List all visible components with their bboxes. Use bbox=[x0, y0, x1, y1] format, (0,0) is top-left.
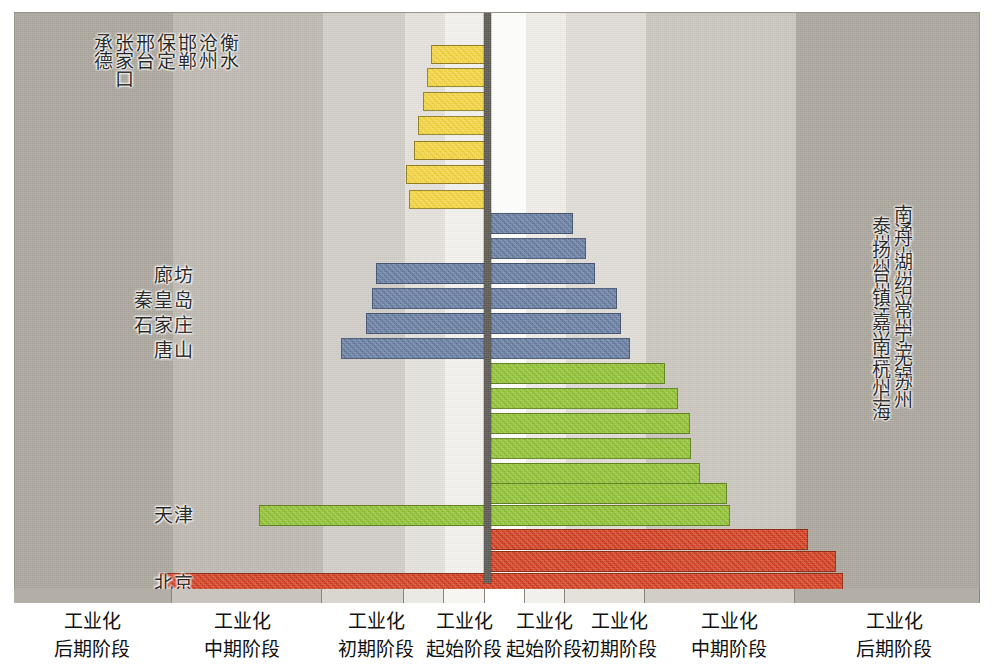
bar-texture bbox=[488, 364, 664, 383]
x-label-line1-5: 工业化 bbox=[564, 608, 674, 636]
x-label-line2-6: 中期阶段 bbox=[674, 636, 784, 664]
bar-texture bbox=[488, 214, 572, 233]
x-label-line2-7: 后期阶段 bbox=[839, 636, 949, 664]
x-tick-cell-4 bbox=[444, 589, 485, 603]
x-label-line1-1: 工业化 bbox=[187, 608, 297, 636]
bar-blue-4[interactable] bbox=[366, 313, 621, 334]
bar-green-3[interactable] bbox=[487, 438, 691, 459]
bar-yellow-3[interactable] bbox=[418, 116, 487, 135]
bar-green-6[interactable] bbox=[259, 505, 730, 526]
bar-yellow-2[interactable] bbox=[423, 92, 487, 111]
bar-green-0[interactable] bbox=[487, 363, 665, 384]
bar-green-5[interactable] bbox=[487, 483, 727, 504]
left-city-hlabel-2: 石家庄 bbox=[134, 310, 194, 337]
bar-texture bbox=[373, 289, 616, 308]
bar-green-1[interactable] bbox=[487, 388, 678, 409]
x-axis-tick-strip bbox=[14, 589, 980, 603]
x-tick-cell-1 bbox=[172, 589, 322, 603]
x-axis-label-group-0: 工业化后期阶段 bbox=[37, 608, 147, 663]
bar-texture bbox=[488, 389, 677, 408]
x-tick-cell-3 bbox=[404, 589, 444, 603]
bar-texture bbox=[407, 166, 486, 183]
right-city-label-15: 苏州 bbox=[892, 372, 911, 408]
x-label-line2-1: 中期阶段 bbox=[187, 636, 297, 664]
left-city-hlabel-0: 廊坊 bbox=[154, 260, 194, 287]
x-tick-cell-8 bbox=[645, 589, 795, 603]
bar-red-0[interactable] bbox=[487, 529, 808, 550]
bar-texture bbox=[424, 93, 486, 110]
left-city-label-4: 邯郸 bbox=[176, 33, 195, 69]
x-axis-label-group-5: 工业化初期阶段 bbox=[564, 608, 674, 663]
bar-texture bbox=[410, 191, 486, 208]
left-city-hlabel-3: 唐山 bbox=[154, 335, 194, 362]
bar-texture bbox=[419, 117, 486, 134]
left-city-label-0: 承德 bbox=[92, 33, 111, 69]
left-city-label-3: 保定 bbox=[155, 33, 174, 69]
bar-blue-3[interactable] bbox=[372, 288, 617, 309]
x-label-line1-0: 工业化 bbox=[37, 608, 147, 636]
x-tick-cell-6 bbox=[525, 589, 565, 603]
bar-texture bbox=[432, 46, 486, 63]
bar-texture bbox=[488, 439, 690, 458]
x-tick-cell-9 bbox=[795, 589, 980, 603]
x-axis-label-group-7: 工业化后期阶段 bbox=[839, 608, 949, 663]
bar-texture bbox=[260, 506, 729, 525]
bar-texture bbox=[488, 464, 699, 483]
chart-plot-area: 承德张家口邢台保定邯郸沧州衡水 廊坊秦皇岛石家庄唐山天津北京 泰州南通扬州舟山台… bbox=[14, 12, 980, 602]
bar-blue-1[interactable] bbox=[487, 238, 586, 259]
bar-green-4[interactable] bbox=[487, 463, 700, 484]
bar-texture bbox=[415, 142, 486, 159]
left-city-label-6: 衡水 bbox=[218, 33, 237, 69]
bar-texture bbox=[488, 414, 689, 433]
x-tick-cell-7 bbox=[565, 589, 645, 603]
bar-yellow-4[interactable] bbox=[414, 141, 487, 160]
bar-texture bbox=[488, 530, 807, 549]
x-label-line2-0: 后期阶段 bbox=[37, 636, 147, 664]
bar-texture bbox=[428, 69, 486, 86]
x-label-line1-6: 工业化 bbox=[674, 608, 784, 636]
x-axis-label-group-1: 工业化中期阶段 bbox=[187, 608, 297, 663]
left-city-hlabel-4: 天津 bbox=[154, 500, 194, 527]
bar-yellow-0[interactable] bbox=[431, 45, 487, 64]
bar-yellow-1[interactable] bbox=[427, 68, 487, 87]
bar-yellow-6[interactable] bbox=[409, 190, 487, 209]
x-label-line1-7: 工业化 bbox=[839, 608, 949, 636]
left-city-label-5: 沧州 bbox=[197, 33, 216, 69]
center-axis-line bbox=[484, 13, 491, 583]
x-tick-cell-2 bbox=[322, 589, 404, 603]
bar-texture bbox=[488, 552, 835, 571]
left-city-label-1: 张家口 bbox=[113, 33, 132, 87]
bar-red-1[interactable] bbox=[487, 551, 836, 572]
bar-yellow-5[interactable] bbox=[406, 165, 487, 184]
x-tick-cell-0 bbox=[14, 589, 172, 603]
x-tick-cell-5 bbox=[485, 589, 525, 603]
bar-blue-0[interactable] bbox=[487, 213, 573, 234]
x-label-line2-5: 初期阶段 bbox=[564, 636, 674, 664]
chart-root: 承德张家口邢台保定邯郸沧州衡水 廊坊秦皇岛石家庄唐山天津北京 泰州南通扬州舟山台… bbox=[0, 0, 994, 672]
bar-texture bbox=[488, 484, 726, 503]
left-city-hlabel-1: 秦皇岛 bbox=[134, 285, 194, 312]
x-axis-labels: 工业化后期阶段工业化中期阶段工业化初期阶段工业化起始阶段工业化起始阶段工业化初期… bbox=[14, 608, 980, 668]
bar-texture bbox=[488, 239, 585, 258]
right-city-label-14: 上海 bbox=[870, 384, 889, 420]
bar-green-2[interactable] bbox=[487, 413, 690, 434]
x-axis-label-group-6: 工业化中期阶段 bbox=[674, 608, 784, 663]
bar-texture bbox=[367, 314, 620, 333]
left-city-label-2: 邢台 bbox=[134, 33, 153, 69]
